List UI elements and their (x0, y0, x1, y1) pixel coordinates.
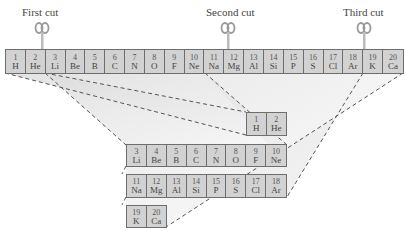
period-2-row: 3Li4Be5B6C7N8O9F10Ne (126, 144, 287, 167)
element-symbol: Mg (227, 62, 240, 71)
element-cell: 18Ar (343, 50, 363, 73)
period-1-row: 1H2He (246, 112, 287, 136)
element-symbol: Si (270, 62, 278, 71)
element-symbol: H (253, 124, 260, 133)
element-symbol: Ne (271, 156, 282, 165)
element-symbol: He (271, 124, 282, 133)
element-cell: 17Cl (324, 50, 344, 73)
element-symbol: K (133, 217, 140, 226)
element-symbol: C (112, 62, 118, 71)
period-3-row: 11Na12Mg13Al14Si15P16S17Cl18Ar (126, 174, 287, 198)
element-cell: 10Ne (185, 50, 205, 73)
element-symbol: P (213, 186, 218, 195)
element-symbol: F (253, 156, 258, 165)
element-cell: 20Ca (383, 50, 403, 73)
element-symbol: O (151, 62, 158, 71)
element-cell: 8O (145, 50, 165, 73)
element-symbol: Mg (150, 186, 163, 195)
element-cell: 8O (226, 145, 246, 166)
element-symbol: Cl (329, 62, 338, 71)
period-4-row: 19K20Ca (126, 205, 167, 228)
element-symbol: Ca (388, 62, 398, 71)
element-cell: 10Ne (266, 145, 286, 166)
element-symbol: S (311, 62, 316, 71)
element-cell: 15P (284, 50, 304, 73)
element-cell: 1H (6, 50, 26, 73)
element-cell: 7N (207, 145, 227, 166)
element-symbol: K (369, 62, 376, 71)
element-cell: 11Na (127, 175, 147, 197)
element-cell: 16S (304, 50, 324, 73)
element-cell: 2He (26, 50, 46, 73)
element-symbol: B (92, 62, 98, 71)
element-symbol: O (233, 156, 240, 165)
element-symbol: Ar (348, 62, 358, 71)
element-symbol: Li (51, 62, 59, 71)
element-symbol: Ca (151, 217, 161, 226)
element-cell: 15P (207, 175, 227, 197)
periodic-strip-diagram: First cut Second cut Third cut 1H2He3Li4… (0, 0, 406, 231)
element-cell: 6C (187, 145, 207, 166)
element-symbol: Si (192, 186, 200, 195)
element-cell: 9F (165, 50, 185, 73)
element-symbol: Li (132, 156, 140, 165)
element-cell: 20Ca (147, 206, 166, 227)
element-cell: 19K (363, 50, 383, 73)
element-symbol: P (291, 62, 296, 71)
element-symbol: Al (172, 186, 181, 195)
element-symbol: F (172, 62, 177, 71)
element-symbol: C (193, 156, 199, 165)
element-cell: 12Mg (147, 175, 167, 197)
element-cell: 7N (125, 50, 145, 73)
element-cell: 13Al (244, 50, 264, 73)
element-symbol: N (213, 156, 220, 165)
element-symbol: Cl (251, 186, 260, 195)
element-cell: 6C (105, 50, 125, 73)
element-symbol: H (12, 62, 19, 71)
element-symbol: Ne (189, 62, 200, 71)
element-symbol: S (233, 186, 238, 195)
element-cell: 14Si (264, 50, 284, 73)
element-cell: 12Mg (224, 50, 244, 73)
second-cut-label: Second cut (206, 6, 255, 18)
element-symbol: Be (151, 156, 161, 165)
element-cell: 4Be (147, 145, 167, 166)
element-cell: 1H (247, 113, 267, 135)
element-symbol: Ar (271, 186, 281, 195)
element-cell: 2He (267, 113, 286, 135)
element-cell: 16S (226, 175, 246, 197)
element-cell: 4Be (66, 50, 86, 73)
element-strip: 1H2He3Li4Be5B6C7N8O9F10Ne11Na12Mg13Al14S… (5, 49, 404, 74)
element-symbol: Na (131, 186, 142, 195)
element-cell: 11Na (204, 50, 224, 73)
element-symbol: Be (70, 62, 80, 71)
first-cut-label: First cut (22, 6, 58, 18)
element-cell: 13Al (167, 175, 187, 197)
element-symbol: B (173, 156, 179, 165)
element-cell: 14Si (187, 175, 207, 197)
element-cell: 18Ar (266, 175, 286, 197)
element-cell: 5B (85, 50, 105, 73)
element-symbol: Al (249, 62, 258, 71)
element-symbol: Na (209, 62, 220, 71)
element-cell: 3Li (46, 50, 66, 73)
element-cell: 3Li (127, 145, 147, 166)
element-cell: 5B (167, 145, 187, 166)
element-cell: 19K (127, 206, 147, 227)
element-cell: 17Cl (246, 175, 266, 197)
element-symbol: N (131, 62, 138, 71)
third-cut-label: Third cut (343, 6, 384, 18)
element-cell: 9F (246, 145, 266, 166)
element-symbol: He (30, 62, 41, 71)
